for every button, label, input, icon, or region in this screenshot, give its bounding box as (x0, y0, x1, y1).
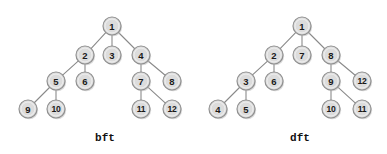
node-label: 12 (358, 76, 367, 86)
tree-node: 9 (19, 100, 38, 119)
node-label: 10 (52, 104, 61, 114)
node-label: 1 (109, 21, 115, 32)
node-label: 5 (53, 76, 59, 87)
node-label: 4 (215, 104, 221, 115)
tree-nodes: 127836912451011 (209, 17, 372, 119)
tree-node: 1 (103, 17, 122, 36)
node-label: 5 (243, 104, 249, 115)
node-label: 2 (82, 50, 87, 61)
tree-node: 1 (293, 17, 312, 36)
tree-node: 8 (163, 72, 182, 91)
tree-edge (337, 87, 355, 104)
tree-node: 10 (47, 100, 66, 119)
tree-node: 3 (237, 72, 256, 91)
tree-dft: 127836912451011dft (209, 17, 372, 144)
tree-node: 5 (237, 100, 256, 119)
tree-traversal-figure: 123456789101112bft127836912451011dft (0, 0, 387, 154)
node-label: 6 (271, 76, 276, 87)
tree-node: 8 (322, 46, 341, 65)
node-label: 12 (168, 104, 177, 114)
node-label: 7 (138, 76, 143, 87)
tree-edge (224, 87, 240, 103)
node-label: 8 (328, 50, 333, 61)
node-label: 10 (327, 104, 336, 114)
tree-node: 2 (265, 46, 284, 65)
tree-edge (34, 87, 50, 103)
tree-edge (280, 32, 296, 49)
tree-node: 6 (265, 72, 284, 91)
tree-node: 7 (293, 46, 312, 65)
node-label: 8 (169, 76, 174, 87)
tree-edges (34, 32, 166, 103)
tree-edge (91, 32, 106, 49)
tree-edges (224, 32, 356, 103)
tree-node: 10 (322, 100, 341, 119)
tree-edge (252, 61, 268, 75)
tree-caption-bft: bft (95, 132, 115, 144)
tree-diagrams-canvas: 123456789101112bft127836912451011dft (0, 0, 387, 154)
tree-edge (147, 87, 165, 104)
tree-node: 6 (76, 72, 95, 91)
tree-node: 12 (163, 100, 182, 119)
tree-caption-dft: dft (290, 132, 310, 144)
node-label: 11 (358, 104, 367, 114)
tree-edge (148, 60, 166, 75)
tree-node: 11 (132, 100, 151, 119)
tree-edge (118, 32, 135, 49)
tree-node: 3 (103, 46, 122, 65)
node-label: 4 (138, 50, 144, 61)
node-label: 2 (271, 50, 276, 61)
node-label: 9 (25, 104, 30, 115)
tree-edge (62, 61, 78, 76)
node-label: 1 (299, 21, 305, 32)
tree-node: 9 (322, 72, 341, 91)
tree-node: 5 (47, 72, 66, 91)
node-label: 3 (243, 76, 248, 87)
tree-bft: 123456789101112bft (19, 17, 182, 144)
tree-node: 4 (132, 46, 151, 65)
tree-node: 12 (353, 72, 372, 91)
tree-nodes: 123456789101112 (19, 17, 182, 119)
tree-node: 2 (76, 46, 95, 65)
tree-edge (308, 32, 325, 49)
tree-edge (338, 60, 356, 75)
node-label: 6 (82, 76, 87, 87)
node-label: 3 (109, 50, 114, 61)
tree-node: 4 (209, 100, 228, 119)
node-label: 11 (137, 104, 146, 114)
tree-node: 7 (132, 72, 151, 91)
node-label: 9 (328, 76, 333, 87)
node-label: 7 (299, 50, 304, 61)
tree-node: 11 (353, 100, 372, 119)
